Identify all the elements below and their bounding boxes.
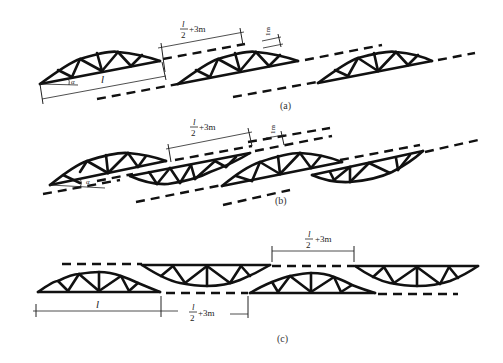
gap-label-suffix: +3m (198, 308, 215, 318)
span-label: l (96, 298, 99, 310)
diagram-canvas: l α l 2 +3m 1m (a) (0, 0, 503, 363)
gap-dimension-line (166, 132, 252, 149)
gap-label-numerator: l (193, 117, 196, 127)
dashed-line (163, 44, 245, 59)
gap-label-denominator: 2 (306, 240, 311, 250)
offset-label: 1m (264, 27, 272, 37)
gap-label-numerator: l (182, 19, 185, 29)
caption-c: (c) (277, 333, 288, 345)
caption-a: (a) (280, 100, 291, 112)
extension-line (40, 84, 43, 104)
offset-dimension-line (262, 37, 281, 41)
angle-label: α (86, 178, 90, 186)
truss-upright (250, 273, 375, 293)
gap-label-denominator: 2 (191, 128, 196, 138)
truss-upright (38, 272, 160, 292)
panel-c: l l 2 +3m l 2 +3m (c) (33, 229, 478, 345)
extension-line (248, 128, 252, 146)
truss-upright (50, 153, 166, 185)
caption-b: (b) (275, 195, 287, 207)
gap-label-suffix: +3m (189, 24, 206, 34)
offset-tick (281, 131, 284, 145)
dashed-line (425, 140, 478, 152)
gap-label-denominator: 2 (190, 313, 195, 323)
truss-inverted (355, 266, 478, 286)
dashed-line (136, 185, 222, 202)
span-label: l (101, 73, 104, 85)
gap-label-denominator: 2 (181, 30, 186, 40)
truss-inverted (312, 151, 423, 182)
gap-label-suffix: +3m (315, 234, 332, 244)
truss-inverted (142, 265, 270, 286)
gap-label-suffix: +3m (199, 122, 216, 132)
gap-label-numerator: l (308, 229, 311, 239)
extension-line (168, 144, 171, 162)
gap-dimension-line (158, 32, 244, 48)
offset-label: 1m (269, 125, 277, 135)
dashed-line (438, 53, 475, 60)
truss-upright (318, 52, 432, 83)
gap-label-numerator: l (192, 302, 195, 312)
panel-a: l α l 2 +3m 1m (a) (40, 19, 475, 112)
truss-upright (40, 52, 160, 84)
dashed-line (233, 82, 317, 97)
dashed-line (305, 45, 382, 60)
angle-label: α (71, 78, 75, 86)
panel-b: α l 2 +3m 1m (b) (43, 117, 478, 207)
truss-upright (178, 52, 298, 84)
extension-line (240, 28, 243, 45)
